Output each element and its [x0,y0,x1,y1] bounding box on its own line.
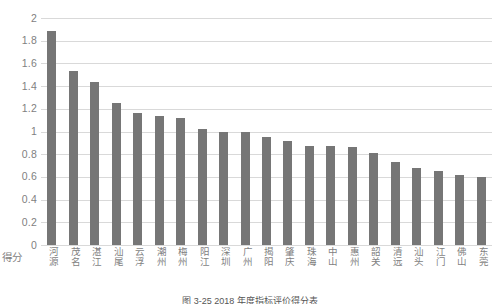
y-tick-label: 0.4 [0,194,37,205]
bar [305,146,314,245]
x-tick-label: 云浮 [131,247,144,267]
bar [133,113,142,245]
bar [369,153,378,245]
bar [326,146,335,245]
x-tick-label: 揭阳 [260,247,273,267]
bar [262,137,271,245]
x-tick-label: 珠海 [303,247,316,267]
x-tick-label: 江门 [432,247,445,267]
y-tick-label: 2 [0,13,37,24]
x-tick-label: 广州 [239,247,252,267]
y-axis-title: 得分 [2,251,38,263]
bar [434,171,443,245]
bar [241,132,250,246]
y-tick-label: 1.6 [0,58,37,69]
figure-caption: 图 3-25 2018 年度指标评价得分表 [0,296,500,304]
y-tick-label: 1.2 [0,103,37,114]
x-tick-label: 肇庆 [281,247,294,267]
bar [455,175,464,245]
bars-layer [41,18,492,245]
x-tick-label: 茂名 [67,247,80,267]
bar-chart: 21.81.61.41.210.80.60.40.20 得分 河源茂名湛江汕尾云… [0,0,500,304]
x-tick-label: 汕头 [410,247,423,267]
x-tick-label: 阳江 [196,247,209,267]
y-tick-label: 0.2 [0,217,37,228]
bar [69,71,78,245]
bar [219,132,228,246]
x-tick-label: 佛山 [453,247,466,267]
y-tick-label: 0.8 [0,149,37,160]
bar [176,118,185,245]
x-tick-label: 梅州 [174,247,187,267]
y-tick-label: 1.8 [0,35,37,46]
x-tick-label: 东莞 [475,247,488,267]
x-tick-label: 深圳 [217,247,230,267]
bar [112,103,121,245]
bar [391,162,400,245]
x-tick-label: 河源 [45,247,58,267]
axis-baseline [41,245,492,246]
x-tick-label: 清远 [389,247,402,267]
x-tick-label: 湛江 [88,247,101,267]
bar [198,129,207,245]
bar [47,31,56,246]
x-tick-label: 汕尾 [110,247,123,267]
x-tick-label: 韶关 [367,247,380,267]
y-tick-label: 0.6 [0,171,37,182]
x-tick-label: 惠州 [346,247,359,267]
bar [155,116,164,245]
bar [477,177,486,245]
bar [283,141,292,245]
y-tick-label: 1 [0,126,37,137]
bar [412,168,421,245]
bar [90,82,99,245]
y-tick-label: 0 [0,240,37,251]
x-tick-label: 潮州 [153,247,166,267]
bar [348,147,357,245]
x-tick-label: 中山 [324,247,337,267]
y-tick-label: 1.4 [0,81,37,92]
